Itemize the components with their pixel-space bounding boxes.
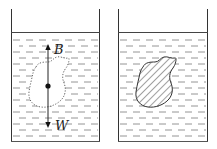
force-label-b: B: [53, 42, 64, 57]
buoyancy-diagram: B W: [0, 0, 217, 149]
force-label-w: W: [55, 118, 70, 133]
right-container: [118, 9, 208, 142]
arrow-up-icon: [45, 44, 50, 50]
object-outline-dotted: [29, 57, 69, 107]
left-container: B W: [11, 9, 100, 142]
center-of-mass-dot: [45, 83, 50, 88]
arrow-down-icon: [45, 122, 50, 128]
